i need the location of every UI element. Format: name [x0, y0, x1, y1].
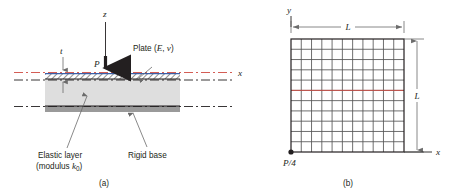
rigid-base-leader-line [133, 113, 147, 147]
corner-load-node [288, 149, 293, 154]
panel-b-x-axis-label: x [435, 147, 441, 157]
mesh-background [291, 39, 404, 152]
panel-b-group: y L L x P/4 (b) [282, 5, 441, 188]
dim-width-L-label: L [344, 22, 350, 32]
panel-a-caption: (a) [99, 179, 109, 188]
panel-a-z-axis-label: z [102, 9, 107, 19]
thickness-t-label: t [60, 46, 63, 56]
figure-svg: x z P t Plate (E, ν) Elastic layer (modu… [0, 0, 452, 194]
panel-b-y-axis-label: y [286, 5, 292, 15]
plate-hatch-band [45, 74, 180, 80]
rigid-base-label: Rigid base [128, 151, 167, 160]
panel-a-x-axis-label: x [237, 68, 243, 78]
elastic-layer-label-line1: Elastic layer [38, 151, 82, 160]
elastic-layer-label-line2: (modulus k0) [36, 161, 83, 172]
dim-height-L-label: L [413, 91, 419, 101]
figure-container: x z P t Plate (E, ν) Elastic layer (modu… [0, 0, 452, 194]
corner-load-label: P/4 [282, 158, 296, 168]
panel-a-group: x z P t Plate (E, ν) Elastic layer (modu… [14, 9, 243, 188]
load-P-label: P [93, 59, 100, 69]
plate-label: Plate (E, ν) [133, 43, 174, 53]
panel-b-caption: (b) [343, 179, 353, 188]
